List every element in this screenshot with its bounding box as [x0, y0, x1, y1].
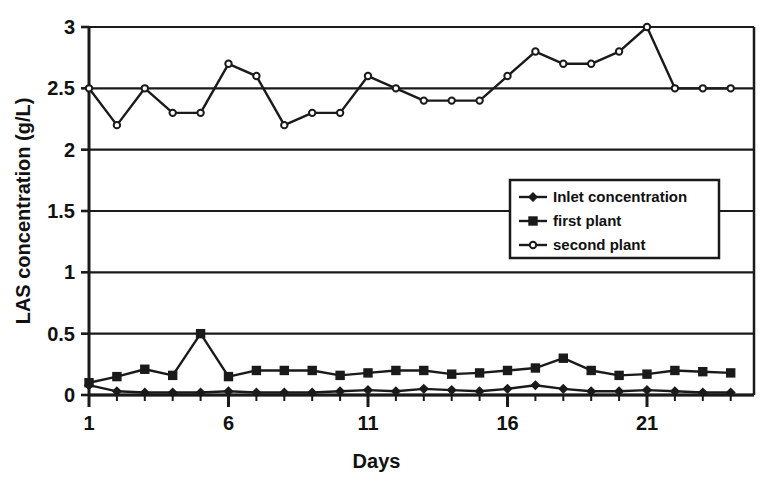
data-point-marker-circle — [616, 48, 622, 54]
y-tick-label: 3 — [64, 16, 75, 38]
data-point-marker-circle — [281, 122, 287, 128]
data-point-marker-square — [197, 330, 205, 338]
data-point-marker-circle — [449, 97, 455, 103]
y-axis-title: LAS concentration (g/L) — [12, 98, 34, 325]
chart-figure: 00.511.522.53 16111621 LAS concentration… — [0, 0, 779, 499]
data-point-marker-square — [280, 366, 288, 374]
data-point-marker-circle — [672, 85, 678, 91]
data-point-marker-square — [169, 371, 177, 379]
y-tick-label: 1 — [64, 261, 75, 283]
data-point-marker-square — [225, 373, 233, 381]
data-point-marker-circle — [476, 97, 482, 103]
data-point-marker-square — [113, 373, 121, 381]
y-tick-label: 1.5 — [47, 200, 75, 222]
data-point-marker-circle — [309, 110, 315, 116]
data-point-marker-circle — [197, 110, 203, 116]
data-point-marker-square — [364, 369, 372, 377]
data-point-marker-square — [420, 366, 428, 374]
data-point-marker-square — [308, 366, 316, 374]
data-point-marker-square — [615, 371, 623, 379]
legend-label: second plant — [553, 236, 646, 253]
data-point-marker-circle — [114, 122, 120, 128]
data-point-marker-circle — [588, 61, 594, 67]
data-point-marker-circle — [86, 85, 92, 91]
data-point-marker-circle — [142, 85, 148, 91]
data-point-marker-circle — [532, 48, 538, 54]
data-point-marker-square — [587, 366, 595, 374]
y-tick-label: 0 — [64, 384, 75, 406]
data-point-marker-circle — [644, 24, 650, 30]
x-tick-label: 6 — [223, 412, 234, 434]
y-tick-label: 0.5 — [47, 323, 75, 345]
data-point-marker-square — [252, 366, 260, 374]
data-point-marker-square — [727, 369, 735, 377]
x-tick-label: 11 — [357, 412, 378, 434]
data-point-marker-square — [531, 364, 539, 372]
data-point-marker-square — [392, 366, 400, 374]
data-point-marker-circle — [700, 85, 706, 91]
data-point-marker-square — [336, 371, 344, 379]
data-point-marker-square — [643, 370, 651, 378]
data-point-marker-square — [85, 379, 93, 387]
data-point-marker-square — [504, 366, 512, 374]
data-point-marker-square — [529, 217, 537, 225]
data-point-marker-circle — [225, 61, 231, 67]
data-point-marker-circle — [421, 97, 427, 103]
data-point-marker-circle — [393, 85, 399, 91]
data-point-marker-circle — [530, 242, 536, 248]
data-point-marker-circle — [365, 73, 371, 79]
data-point-marker-circle — [560, 61, 566, 67]
x-tick-label: 1 — [83, 412, 94, 434]
data-point-marker-square — [476, 369, 484, 377]
x-tick-label: 21 — [636, 412, 658, 434]
las-concentration-line-chart: 00.511.522.53 16111621 LAS concentration… — [0, 0, 779, 499]
y-tick-label: 2 — [64, 139, 75, 161]
data-point-marker-circle — [170, 110, 176, 116]
legend-label: Inlet concentration — [553, 188, 687, 205]
data-point-marker-circle — [337, 110, 343, 116]
data-point-marker-square — [559, 354, 567, 362]
data-point-marker-circle — [728, 85, 734, 91]
x-tick-label: 16 — [496, 412, 518, 434]
chart-legend: Inlet concentrationfirst plantsecond pla… — [510, 180, 719, 258]
y-tick-label: 2.5 — [47, 77, 75, 99]
data-point-marker-square — [671, 366, 679, 374]
data-point-marker-circle — [253, 73, 259, 79]
data-point-marker-square — [141, 365, 149, 373]
x-axis-title: Days — [353, 450, 401, 472]
data-point-marker-square — [448, 370, 456, 378]
data-point-marker-square — [699, 368, 707, 376]
legend-label: first plant — [553, 212, 621, 229]
data-point-marker-circle — [504, 73, 510, 79]
